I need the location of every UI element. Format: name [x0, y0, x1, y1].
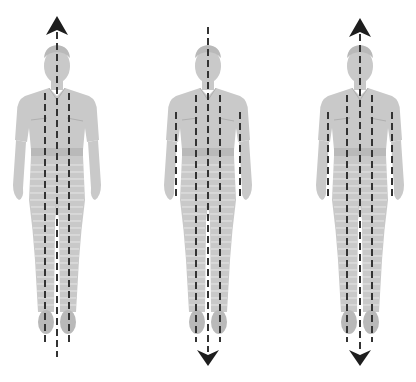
- figure-1: [13, 16, 101, 357]
- arrow-down-icon: [197, 350, 219, 366]
- arrow-down-icon: [349, 350, 371, 366]
- figure-2: [164, 27, 252, 366]
- diagram-canvas: [0, 0, 416, 382]
- figure-3: [316, 18, 404, 366]
